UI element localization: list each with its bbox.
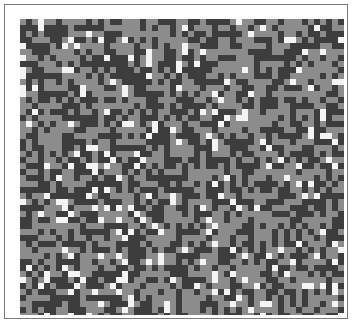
grid-cell[interactable]	[338, 313, 344, 315]
board-frame	[4, 4, 348, 319]
cell-grid[interactable]	[20, 19, 344, 315]
